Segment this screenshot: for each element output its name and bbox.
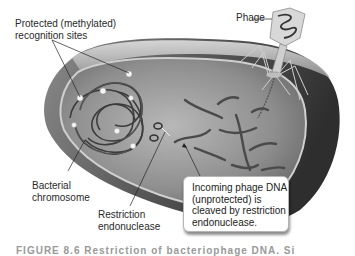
callout-line: endonuclease. [192,217,288,229]
phage-label: Phage [236,12,265,24]
restriction-endonuclease-label: Restriction endonuclease [98,209,160,232]
label-line: endonuclease [98,221,160,233]
figure-caption: FIGURE 8.6 Restriction of bacteriophage … [16,245,295,256]
callout-line: (unprotected) is [192,194,288,206]
label-line: Bacterial [32,180,90,192]
protected-sites-label: Protected (methylated) recognition sites [15,18,116,41]
label-line: chromosome [32,192,90,204]
callout-line: Incoming phage DNA [192,182,288,194]
label-line: Protected (methylated) [15,18,116,30]
bacterial-chromosome-label: Bacterial chromosome [32,180,90,203]
label-line: recognition sites [15,30,116,42]
phage-dna-callout: Incoming phage DNA (unprotected) is clea… [183,176,289,232]
label-line: Phage [236,12,265,23]
label-line: Restriction [98,209,160,221]
callout-line: cleaved by restriction [192,205,288,217]
